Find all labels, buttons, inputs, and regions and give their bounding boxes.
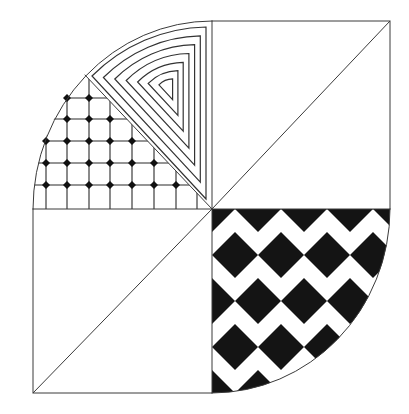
grid-dot [42, 181, 50, 189]
grid-dot [106, 137, 114, 145]
leaf-drawing [0, 0, 409, 414]
grid-dot [128, 181, 136, 189]
grid-dot [106, 181, 114, 189]
grid-dot [63, 115, 71, 123]
concentric-sector-section [92, 27, 206, 199]
grid-dot [128, 137, 136, 145]
grid-dot [172, 181, 180, 189]
grid-dot [63, 137, 71, 145]
grid-dot [63, 159, 71, 167]
grid-dot [150, 159, 158, 167]
grid-dot [150, 181, 158, 189]
grid-dot [106, 115, 114, 123]
grid-dot [85, 159, 93, 167]
grid-dot [106, 159, 114, 167]
checker-section [212, 209, 392, 395]
grid-dot [85, 137, 93, 145]
grid-dot [63, 181, 71, 189]
grid-dot [42, 159, 50, 167]
grid-dot [85, 115, 93, 123]
grid-dot [128, 159, 136, 167]
grid-dot [85, 94, 93, 102]
grid-dot [85, 181, 93, 189]
